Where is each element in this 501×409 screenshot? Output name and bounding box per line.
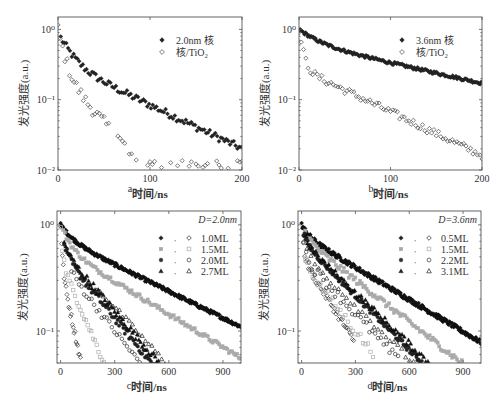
filled-circle-marker [420, 359, 424, 363]
open-triangle-marker [380, 330, 384, 334]
open-triangle-marker [356, 310, 360, 314]
open-triangle-marker [313, 262, 317, 266]
open-triangle-marker [344, 296, 348, 300]
svg-text:,: , [414, 246, 416, 254]
open-triangle-marker [372, 325, 376, 329]
open-triangle-marker [388, 339, 392, 343]
y-tick-label: 10⁻¹ [36, 326, 54, 337]
open-circle-marker [138, 360, 142, 364]
filled-circle-marker [114, 322, 118, 326]
y-tick-label: 10⁰ [282, 24, 296, 35]
open-circle-marker [388, 351, 392, 355]
filled-square-marker [154, 303, 157, 306]
open-circle-marker [92, 303, 96, 307]
filled-circle-marker [368, 311, 372, 315]
filled-square-marker [138, 293, 141, 296]
open-triangle-marker [360, 310, 364, 314]
open-diamond-marker [436, 129, 440, 133]
filled-square-marker [76, 251, 79, 254]
open-square-marker [73, 294, 76, 297]
filled-square-marker [399, 247, 403, 251]
open-square-marker [81, 313, 84, 316]
filled-circle-marker [424, 363, 428, 367]
open-square-marker [187, 247, 191, 251]
legend: ,1.0ML,1.5ML,2.0ML,2.7ML [159, 233, 229, 277]
filled-triangle-marker [383, 316, 387, 320]
x-tick-label: 600 [402, 366, 417, 377]
filled-triangle-marker [363, 298, 367, 302]
open-triangle-marker [364, 314, 368, 318]
filled-square-marker [226, 347, 229, 350]
legend-label: 1.0ML [201, 233, 229, 244]
open-diamond-marker [466, 148, 470, 152]
filled-square-marker [83, 257, 86, 260]
legend-label: 2.0nm 核 [176, 34, 214, 46]
filled-square-marker [159, 247, 163, 251]
filled-square-marker [341, 270, 344, 273]
filled-square-marker [157, 305, 160, 308]
legend: ,0.5ML,1.5ML,2.2ML,3.1ML [399, 233, 469, 277]
open-diamond-marker [116, 134, 120, 138]
annotation-label: D=3.6nm [437, 214, 477, 225]
open-triangle-marker [396, 343, 400, 347]
filled-diamond-marker [149, 106, 153, 110]
open-circle-marker [133, 353, 137, 357]
filled-square-marker [239, 357, 242, 360]
open-diamond-marker [411, 118, 415, 122]
open-diamond-marker [432, 128, 436, 132]
filled-square-marker [177, 316, 180, 319]
open-diamond-marker [194, 162, 198, 166]
open-square-marker [97, 350, 100, 353]
open-circle-marker [427, 258, 431, 262]
filled-diamond-marker [217, 139, 221, 143]
filled-diamond-marker [159, 236, 164, 241]
open-circle-marker [75, 277, 79, 281]
y-tick-label: 10⁰ [40, 219, 54, 230]
filled-square-marker [417, 326, 420, 329]
filled-square-marker [428, 334, 431, 337]
filled-square-marker [339, 264, 342, 267]
legend-label: 0.5ML [441, 233, 469, 244]
annotation-label: D=2.0nm [197, 214, 237, 225]
svg-text:,: , [174, 268, 176, 276]
filled-square-marker [182, 320, 185, 323]
open-triangle-marker [384, 335, 388, 339]
filled-square-marker [96, 268, 99, 271]
open-circle-marker [105, 316, 109, 320]
open-square-marker [95, 343, 98, 346]
y-tick-label: 10⁻² [37, 165, 55, 176]
filled-triangle-marker [406, 338, 410, 342]
filled-square-marker [354, 276, 357, 279]
x-tick-label: 0 [297, 173, 302, 184]
x-tick-label: 100 [143, 173, 158, 184]
open-circle-marker [90, 297, 94, 301]
open-diamond-marker [359, 98, 363, 102]
x-tick-label: 300 [107, 366, 122, 377]
filled-square-marker [235, 352, 238, 355]
open-diamond-marker [201, 165, 205, 169]
filled-circle-marker [136, 345, 140, 349]
open-diamond-marker [189, 160, 193, 164]
open-circle-marker [396, 354, 400, 358]
panel-label-b: b [361, 183, 381, 194]
filled-square-marker [337, 267, 340, 270]
legend-label: 1.5ML [201, 244, 229, 255]
open-diamond-marker [306, 66, 310, 70]
plot-frame [58, 17, 242, 170]
svg-text:,: , [174, 235, 176, 243]
legend-label: 1.5ML [441, 244, 469, 255]
legend-label: 2.7ML [201, 266, 229, 277]
open-triangle-marker [404, 355, 408, 359]
open-diamond-marker [169, 161, 173, 165]
y-axis-label: 发光强度(a.u.) [258, 60, 272, 128]
open-square-marker [427, 247, 431, 251]
open-circle-marker [359, 315, 363, 319]
x-tick-label: 300 [348, 366, 363, 377]
open-diamond-marker [409, 122, 413, 126]
filled-square-marker [333, 259, 336, 262]
filled-square-marker [438, 345, 441, 348]
y-tick-label: 10⁻¹ [37, 94, 55, 105]
y-tick-label: 10⁰ [41, 24, 55, 35]
x-tick-label: 200 [475, 173, 490, 184]
open-triangle-marker [325, 276, 329, 280]
